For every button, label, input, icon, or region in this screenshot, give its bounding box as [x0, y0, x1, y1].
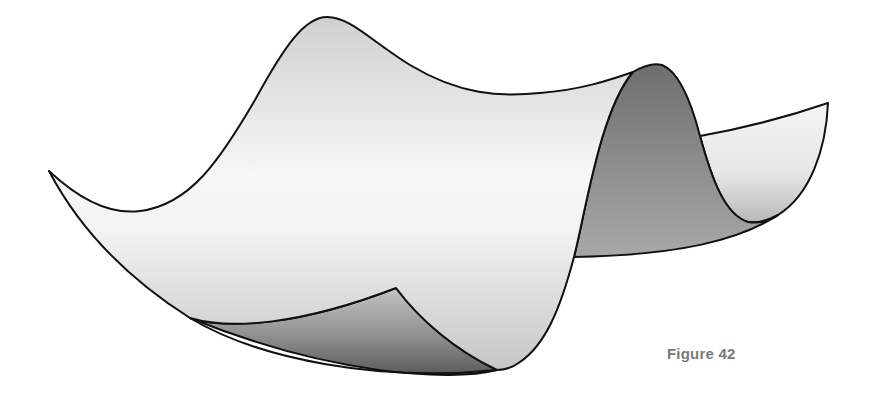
- figure-caption: Figure 42: [667, 345, 736, 362]
- wavy-surface-illustration: [0, 0, 876, 394]
- figure-canvas: Figure 42: [0, 0, 876, 394]
